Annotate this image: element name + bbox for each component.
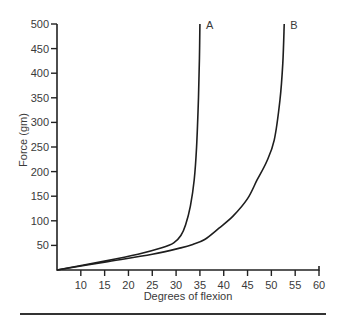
y-tick-label: 500: [31, 18, 49, 30]
y-axis-ticks: 50100150200250300350400450500: [31, 18, 57, 251]
curve-label-b: B: [290, 19, 297, 31]
y-tick-label: 150: [31, 190, 49, 202]
x-tick-label: 60: [313, 279, 325, 291]
y-tick-label: 450: [31, 43, 49, 55]
x-tick-label: 55: [289, 279, 301, 291]
axes: [57, 24, 319, 270]
curve-label-a: A: [206, 19, 214, 31]
y-tick-label: 400: [31, 67, 49, 79]
chart: 50100150200250300350400450500 1015202530…: [0, 0, 338, 324]
x-tick-label: 10: [75, 279, 87, 291]
y-tick-label: 300: [31, 116, 49, 128]
x-tick-label: 15: [99, 279, 111, 291]
y-axis-title: Force (gm): [17, 113, 29, 167]
x-axis-title: Degrees of flexion: [144, 290, 233, 302]
y-tick-label: 100: [31, 215, 49, 227]
curve-a: [57, 24, 200, 270]
x-tick-label: 45: [241, 279, 253, 291]
curves: AB: [57, 19, 298, 270]
y-tick-label: 250: [31, 141, 49, 153]
y-tick-label: 350: [31, 92, 49, 104]
y-tick-label: 200: [31, 166, 49, 178]
x-tick-label: 20: [122, 279, 134, 291]
y-tick-label: 50: [37, 239, 49, 251]
curve-b: [57, 24, 284, 270]
x-axis-ticks: 1015202530354045505560: [75, 270, 325, 291]
x-tick-label: 50: [265, 279, 277, 291]
